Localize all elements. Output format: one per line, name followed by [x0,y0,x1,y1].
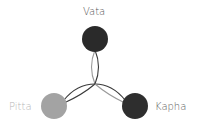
node-kapha [122,93,148,119]
connector-vata [92,50,99,84]
node-pitta [41,93,67,119]
label-kapha: Kapha [155,101,186,113]
label-pitta: Pitta [9,101,32,113]
connector-pitta [64,84,95,103]
dosha-diagram: Vata Pitta Kapha [0,0,197,128]
node-vata [82,26,108,52]
connector-kapha [95,84,125,103]
label-vata: Vata [83,6,105,18]
